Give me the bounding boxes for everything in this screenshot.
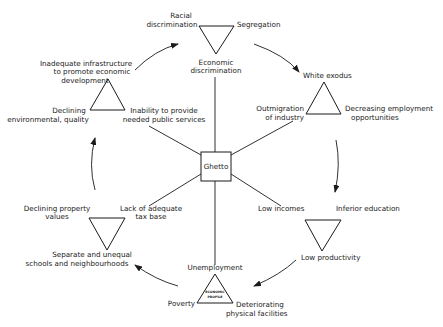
label-unemployment: Unemployment <box>187 263 242 272</box>
ghetto-cycle-diagram: Ghetto Racial discrimination Segregation… <box>0 0 443 327</box>
label-economic-profile-2: PROFILE <box>207 295 222 299</box>
label-white-exodus: White exodus <box>303 71 352 80</box>
arrow-education-to-profile <box>254 260 296 286</box>
label-racial-2: discrimination <box>147 20 198 29</box>
label-decreasing-employment-2: opportunities <box>351 113 399 122</box>
label-racial: Racial <box>170 11 192 20</box>
spoke-low-incomes <box>231 174 281 206</box>
ghetto-label: Ghetto <box>204 162 229 171</box>
ghetto-node: Ghetto <box>201 152 231 181</box>
label-declining-property-2: values <box>45 212 69 221</box>
label-inferior-education: Inferior education <box>336 204 400 213</box>
label-public-services: Inability to provide <box>130 106 198 115</box>
triangle-down <box>199 26 234 54</box>
cluster-education: Low incomes Inferior education Low produ… <box>258 204 400 262</box>
label-deteriorating-2: physical facilities <box>226 309 288 318</box>
triangle-down <box>89 218 125 250</box>
label-inadequate-infra-3: development <box>61 76 109 85</box>
label-separate-unequal: Separate and unequal <box>52 250 132 259</box>
label-decreasing-employment: Decreasing employment <box>345 104 433 113</box>
cluster-schools: Declining property values Lack of adequa… <box>24 204 183 268</box>
cluster-exodus: White exodus Outmigration of industry De… <box>256 71 433 122</box>
label-outmigration-2: of industry <box>265 113 304 122</box>
spoke-public-services <box>149 126 201 155</box>
label-low-incomes: Low incomes <box>258 204 305 213</box>
arrow-exodus-to-education <box>335 140 338 192</box>
label-public-services-2: needed public services <box>123 115 206 124</box>
spoke-tax-base <box>149 174 201 206</box>
label-poverty: Poverty <box>168 299 196 308</box>
arrow-discrimination-to-exodus <box>254 44 299 72</box>
arrow-infrastructure-to-discrimination <box>135 44 178 70</box>
label-separate-unequal-2: schools and neighbourhoods <box>26 259 129 268</box>
arrow-profile-to-schools <box>135 265 178 286</box>
cluster-infrastructure: Inadequate infrastructure to promote eco… <box>7 59 205 124</box>
spoke-outmigration <box>231 121 293 155</box>
label-inadequate-infra-2: to promote economic <box>54 67 131 76</box>
label-low-productivity: Low productivity <box>301 253 361 262</box>
triangle-up <box>306 82 341 114</box>
label-tax-base-2: tax base <box>136 212 167 221</box>
label-economic-profile: ECONOMIC <box>205 290 225 294</box>
label-segregation: Segregation <box>237 20 281 29</box>
label-economic-2: discrimination <box>191 66 242 75</box>
label-outmigration: Outmigration <box>256 104 304 113</box>
triangle-down <box>305 220 341 251</box>
label-declining-env-2: environmental, quality <box>7 115 89 124</box>
label-deteriorating: Deteriorating <box>236 300 284 309</box>
cluster-economic-profile: Unemployment Poverty Deteriorating physi… <box>168 263 288 318</box>
arrow-schools-to-infrastructure <box>92 138 96 190</box>
cluster-discrimination: Racial discrimination Segregation Econom… <box>147 11 281 75</box>
label-declining-env: Declining <box>52 106 86 115</box>
